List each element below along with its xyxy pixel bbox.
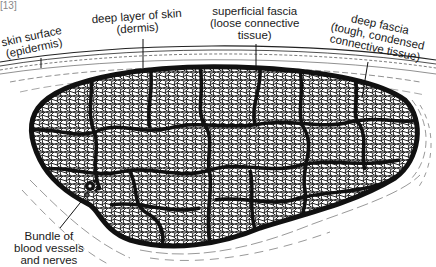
label-vessel-bundle: Bundle of blood vessels and nerves bbox=[14, 230, 84, 266]
label-line: blood vessels bbox=[14, 242, 84, 254]
label-superficial-fascia: superficial fascia (loose connective tis… bbox=[210, 5, 300, 41]
label-line: superficial fascia bbox=[210, 5, 300, 17]
label-line: and nerves bbox=[14, 254, 84, 266]
label-line: Bundle of bbox=[14, 230, 84, 242]
label-line: tissue) bbox=[210, 29, 300, 41]
muscle-belly bbox=[30, 66, 420, 255]
label-line: (loose connective bbox=[210, 17, 300, 29]
